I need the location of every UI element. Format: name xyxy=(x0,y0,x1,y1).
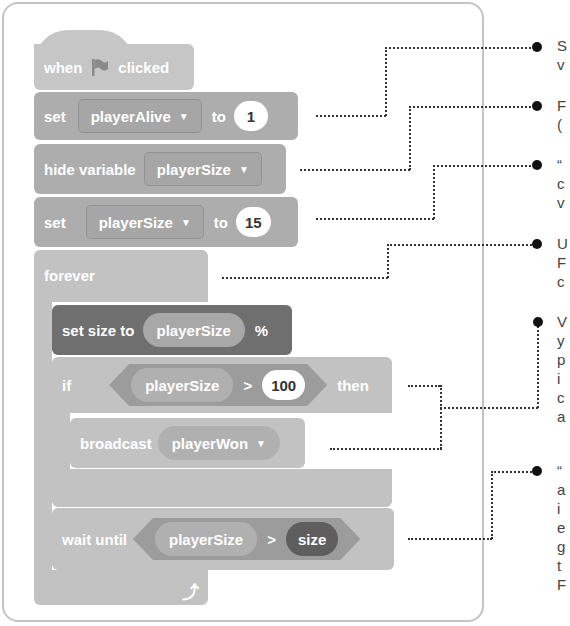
leader-line xyxy=(409,106,411,170)
set-label: set xyxy=(44,214,66,231)
value-input[interactable]: 1 xyxy=(234,101,268,131)
forever-label-row: forever xyxy=(44,262,95,288)
clicked-label: clicked xyxy=(118,59,169,76)
annotation-bullet xyxy=(533,317,543,327)
set-size-label: set size to xyxy=(62,322,135,339)
compare-value-input[interactable]: 100 xyxy=(262,370,305,400)
wait-until-label: wait until xyxy=(62,531,127,548)
leader-line xyxy=(491,471,535,473)
chevron-down-icon: ▼ xyxy=(179,111,189,122)
annotation-2: F ( xyxy=(557,96,566,134)
broadcast-label: broadcast xyxy=(80,435,152,452)
green-flag-icon xyxy=(90,57,110,77)
greater-than-operator[interactable]: playerSize > 100 xyxy=(109,364,327,406)
leader-line xyxy=(330,448,442,450)
leader-line xyxy=(433,165,435,219)
leader-line xyxy=(387,244,389,278)
leader-line xyxy=(316,115,386,117)
leader-line xyxy=(222,277,388,279)
leader-line xyxy=(385,47,387,116)
leader-line xyxy=(408,385,440,387)
when-label: when xyxy=(44,59,82,76)
annotation-4: U F c xyxy=(557,234,568,291)
set-size-block[interactable]: set size to playerSize % xyxy=(52,305,292,355)
set-player-alive-block[interactable]: set playerAlive▼ to 1 xyxy=(34,92,298,140)
message-dropdown[interactable]: playerWon▼ xyxy=(158,426,280,460)
then-label: then xyxy=(337,377,369,394)
annotation-bullet xyxy=(532,466,542,476)
wait-until-block[interactable]: wait until playerSize > size xyxy=(52,508,394,570)
greater-than-operator[interactable]: playerSize > size xyxy=(133,518,360,560)
player-size-reporter[interactable]: playerSize xyxy=(143,313,245,347)
chevron-down-icon: ▼ xyxy=(239,164,249,175)
annotation-6: “ a i e g t F xyxy=(557,461,566,594)
player-size-reporter[interactable]: playerSize xyxy=(131,368,233,402)
value-input[interactable]: 15 xyxy=(236,207,271,237)
leader-line xyxy=(387,244,535,246)
when-flag-clicked-block[interactable]: when clicked xyxy=(34,44,194,90)
player-size-dropdown[interactable]: playerSize▼ xyxy=(144,152,262,186)
annotation-bullet xyxy=(532,101,542,111)
forever-label: forever xyxy=(44,267,95,284)
annotation-5: V y p i c a xyxy=(557,312,567,426)
set-label: set xyxy=(44,108,66,125)
chevron-down-icon: ▼ xyxy=(256,438,266,449)
hide-variable-label: hide variable xyxy=(44,161,136,178)
leader-line xyxy=(440,407,538,409)
if-label: if xyxy=(62,377,71,394)
chevron-down-icon: ▼ xyxy=(181,217,191,228)
leader-line xyxy=(385,47,535,49)
broadcast-block[interactable]: broadcast playerWon▼ xyxy=(70,418,305,468)
annotation-bullet xyxy=(532,239,542,249)
loop-arrow-icon: ⤴ xyxy=(182,578,199,603)
size-reporter[interactable]: size xyxy=(286,522,338,556)
leader-line xyxy=(408,538,492,540)
set-player-size-block[interactable]: set playerSize▼ to 15 xyxy=(34,197,298,247)
player-alive-dropdown[interactable]: playerAlive▼ xyxy=(78,99,202,133)
player-size-dropdown[interactable]: playerSize▼ xyxy=(86,205,204,239)
leader-line xyxy=(316,218,434,220)
annotation-bullet xyxy=(532,160,542,170)
annotation-1: S v xyxy=(557,36,567,74)
annotation-3: “ c v xyxy=(557,155,565,212)
greater-than-symbol: > xyxy=(267,531,276,548)
leader-line xyxy=(433,165,535,167)
annotation-bullet xyxy=(532,42,542,52)
greater-than-symbol: > xyxy=(243,377,252,394)
to-label: to xyxy=(214,214,228,231)
leader-line xyxy=(409,106,535,108)
leader-line xyxy=(300,169,410,171)
player-size-reporter[interactable]: playerSize xyxy=(155,522,257,556)
leader-line xyxy=(491,471,493,539)
leader-line xyxy=(440,385,442,449)
to-label: to xyxy=(212,108,226,125)
if-header-row: if playerSize > 100 then xyxy=(52,357,369,413)
percent-label: % xyxy=(255,322,268,339)
leader-line xyxy=(537,322,539,408)
hide-variable-block[interactable]: hide variable playerSize▼ xyxy=(34,144,286,194)
